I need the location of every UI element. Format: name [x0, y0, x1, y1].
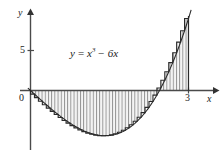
x-axis-label: x — [207, 94, 211, 104]
equation-y: y — [70, 47, 75, 59]
y-tick-label-5: 5 — [20, 45, 25, 55]
y-axis-arrow — [27, 9, 34, 16]
figure-canvas: y 5 0 3 x y=x3− 6x — [0, 0, 224, 151]
x-axis-arrow — [213, 87, 220, 94]
equation-equals: = — [78, 47, 84, 59]
equation-exponent: 3 — [92, 46, 96, 54]
function-equation-label: y=x3− 6x — [70, 47, 118, 59]
equation-tail: − 6x — [98, 47, 119, 59]
x-tick-label-3: 3 — [185, 93, 190, 103]
origin-label: 0 — [19, 93, 24, 103]
y-axis-label: y — [18, 8, 22, 18]
riemann-sum-plot — [0, 0, 224, 151]
